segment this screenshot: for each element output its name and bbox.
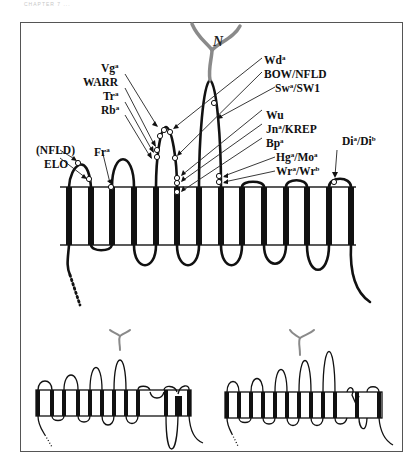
top-panel: N <box>36 24 376 305</box>
label-vg: Vga <box>101 62 119 75</box>
label-rb: Rba <box>101 104 120 116</box>
label-hg-mo: Hga/Moa <box>276 151 318 164</box>
label-di: Dia/Dib <box>342 135 376 147</box>
label-wr: Wra/Wrb <box>276 165 320 177</box>
label-nfld: (NFLD) <box>36 144 75 157</box>
label-jn: Jna/KREP <box>266 123 317 135</box>
n-terminus-label: N <box>212 34 224 49</box>
label-wu: Wu <box>266 109 284 121</box>
bottom-left-panel <box>36 330 203 449</box>
label-bp: Bpa <box>266 137 284 150</box>
label-tr: Tra <box>103 90 119 102</box>
bottom-right-panel <box>225 330 393 446</box>
glycan-chain <box>192 24 240 80</box>
label-sw: Swa/SW1 <box>275 82 320 94</box>
label-fr: Fra <box>94 146 110 158</box>
label-elo: ELO <box>44 158 68 170</box>
membrane-topology-diagram: N <box>0 0 417 475</box>
label-wd: Wda <box>264 54 286 66</box>
antigen-labels: (NFLD) ELO Fra Vga WARR Tra Rba Wda BOW/… <box>36 54 376 177</box>
label-bow-nfld: BOW/NFLD <box>264 68 327 80</box>
label-warr: WARR <box>83 76 119 88</box>
transmembrane-segments <box>66 187 354 245</box>
